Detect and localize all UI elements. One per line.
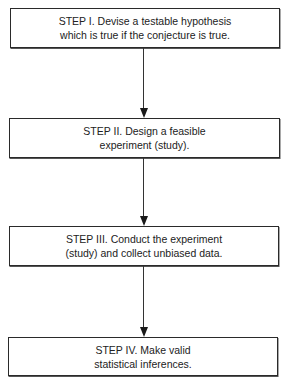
step-3-line-2: (study) and collect unbiased data. bbox=[65, 246, 222, 260]
connector-3-4-line bbox=[143, 266, 144, 329]
connector-1-2-line bbox=[143, 48, 144, 110]
step-2-line-2: experiment (study). bbox=[100, 138, 190, 152]
connector-2-3-line bbox=[143, 158, 144, 218]
step-1-line-1: STEP I. Devise a testable hypothesis bbox=[59, 14, 232, 28]
step-2-line-1: STEP II. Design a feasible bbox=[83, 124, 205, 138]
step-2-box: STEP II. Design a feasible experiment (s… bbox=[9, 118, 280, 158]
step-4-line-1: STEP IV. Make valid bbox=[95, 343, 190, 357]
step-3-box: STEP III. Conduct the experiment (study)… bbox=[9, 226, 279, 266]
arrow-down-icon bbox=[140, 216, 148, 226]
step-4-line-2: statistical inferences. bbox=[94, 357, 191, 371]
step-3-line-1: STEP III. Conduct the experiment bbox=[66, 232, 222, 246]
arrow-down-icon bbox=[140, 327, 148, 337]
step-4-box: STEP IV. Make valid statistical inferenc… bbox=[8, 337, 278, 376]
step-1-box: STEP I. Devise a testable hypothesis whi… bbox=[10, 8, 280, 48]
step-1-line-2: which is true if the conjecture is true. bbox=[60, 28, 230, 42]
arrow-down-icon bbox=[140, 108, 148, 118]
